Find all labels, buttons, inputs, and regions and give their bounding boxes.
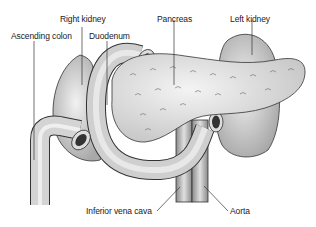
label-pancreas: Pancreas	[157, 15, 192, 24]
label-aorta: Aorta	[230, 207, 250, 216]
label-left-kidney: Left kidney	[230, 15, 270, 24]
label-inferior-vena-cava: Inferior vena cava	[86, 207, 152, 216]
label-right-kidney: Right kidney	[60, 15, 106, 24]
label-ascending-colon: Ascending colon	[11, 32, 72, 41]
label-duodenum: Duodenum	[89, 32, 130, 41]
ascending-colon	[40, 126, 94, 205]
pancreas-anatomy-diagram: Right kidney Ascending colon Duodenum Pa…	[0, 0, 316, 227]
